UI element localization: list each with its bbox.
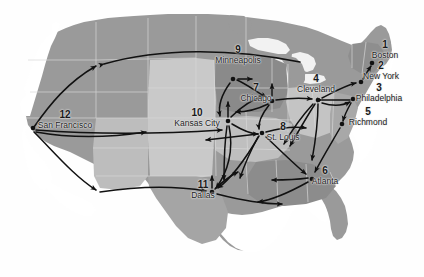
texas-region bbox=[148, 176, 228, 244]
city-node-richmond[interactable] bbox=[340, 122, 345, 127]
city-node-kansas-city[interactable] bbox=[226, 119, 231, 124]
upper-midwest-region bbox=[215, 56, 288, 112]
city-node-philadelphia[interactable] bbox=[351, 97, 356, 102]
city-node-st-louis[interactable] bbox=[260, 131, 265, 136]
city-node-new-york[interactable] bbox=[359, 80, 364, 85]
city-node-boston[interactable] bbox=[370, 61, 375, 66]
city-node-dallas[interactable] bbox=[210, 190, 215, 195]
city-node-san-francisco[interactable] bbox=[31, 126, 36, 131]
city-node-cleveland[interactable] bbox=[316, 98, 321, 103]
southwest-region bbox=[93, 118, 148, 190]
us-network-map: 1Boston2New York3Philadelphia5Richmond4C… bbox=[0, 0, 424, 277]
city-node-atlanta[interactable] bbox=[310, 177, 315, 182]
city-node-chicago[interactable] bbox=[270, 99, 275, 104]
city-node-minneapolis[interactable] bbox=[231, 77, 236, 82]
map-graphic bbox=[0, 0, 424, 277]
